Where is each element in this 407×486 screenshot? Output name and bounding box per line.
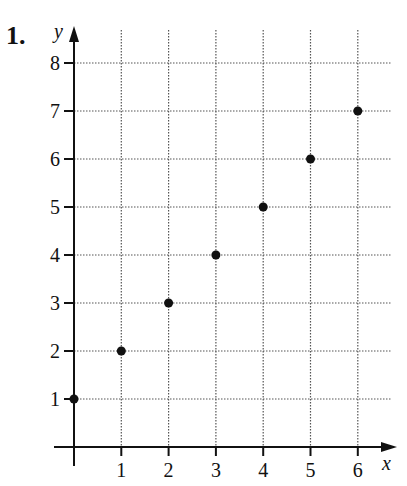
problem-number: 1. (6, 21, 26, 50)
y-axis-arrow-icon (69, 26, 79, 42)
data-point (211, 251, 220, 260)
scatter-plot: 1. 12345612345678 x y (0, 0, 407, 486)
x-tick-label: 2 (164, 459, 174, 481)
y-tick-label: 4 (50, 244, 60, 266)
axes (54, 26, 397, 466)
data-point (70, 395, 79, 404)
x-axis-arrow-icon (381, 442, 397, 452)
x-tick-label: 5 (306, 459, 316, 481)
x-tick-label: 6 (353, 459, 363, 481)
y-tick-label: 1 (50, 388, 60, 410)
data-point (259, 203, 268, 212)
x-tick-label: 1 (116, 459, 126, 481)
y-tick-label: 7 (50, 100, 60, 122)
data-point (164, 299, 173, 308)
x-tick-label: 4 (258, 459, 268, 481)
y-axis-label: y (52, 20, 63, 43)
data-point (306, 155, 315, 164)
y-tick-label: 3 (50, 292, 60, 314)
y-tick-label: 8 (50, 52, 60, 74)
y-tick-label: 6 (50, 148, 60, 170)
x-axis-label: x (381, 452, 391, 474)
data-point (353, 107, 362, 116)
data-point (117, 347, 126, 356)
grid-lines (74, 30, 392, 447)
y-tick-label: 2 (50, 340, 60, 362)
x-tick-label: 3 (211, 459, 221, 481)
tick-labels: 12345612345678 (50, 52, 363, 481)
y-tick-label: 5 (50, 196, 60, 218)
